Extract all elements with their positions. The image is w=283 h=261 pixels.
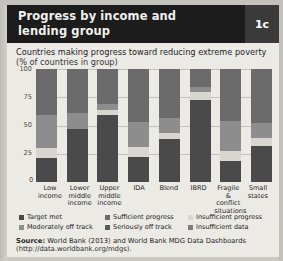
legend-item: Insufficient progress — [188, 213, 262, 222]
x-axis-label: Small states — [244, 185, 272, 215]
legend-label: Insufficient data — [196, 224, 249, 231]
legend-swatch — [188, 225, 193, 230]
bar-segment — [190, 92, 211, 100]
bar-segment — [128, 69, 149, 122]
legend-column-3: Insufficient progressInsufficient data — [188, 213, 262, 233]
source-url: (http://data.worldbank.org/mdgs). — [16, 245, 132, 253]
bar-segment — [251, 123, 272, 138]
chart-subtitle-line2: (% of countries in group) — [16, 57, 274, 67]
bar-fragile-conflict-situations[interactable] — [220, 69, 241, 182]
legend-label: Insufficient progress — [196, 214, 262, 221]
bar-blend[interactable] — [159, 69, 180, 182]
x-axis-labels: Low incomeLower middle incomeUpper middl… — [36, 185, 272, 215]
x-axis-label: IBRD — [185, 185, 213, 215]
bar-small-states[interactable] — [251, 69, 272, 182]
bar-ibrd[interactable] — [190, 69, 211, 182]
bar-segment — [220, 121, 241, 152]
page-background: Progress by income and lending group 1c … — [0, 0, 283, 261]
figure-body: Countries making progress toward reducin… — [7, 43, 279, 257]
figure-title-line1: Progress by income and — [18, 9, 228, 24]
x-axis-label: Low income — [36, 185, 64, 215]
figure-header: Progress by income and lending group 1c — [7, 5, 279, 43]
bar-segment — [67, 113, 88, 129]
legend-item: Seriously off track — [105, 223, 174, 232]
bar-segment — [36, 115, 57, 148]
legend-swatch — [19, 215, 24, 220]
y-axis-tick-label: 25 — [15, 150, 32, 157]
y-axis-tick-label: 100 — [15, 66, 32, 73]
chart-subtitle-line1: Countries making progress toward reducin… — [16, 47, 274, 57]
legend-swatch — [19, 225, 24, 230]
bar-segment — [159, 139, 180, 182]
legend-item: Target met — [19, 213, 93, 222]
bar-segment — [36, 69, 57, 115]
bar-segment — [97, 69, 118, 104]
x-axis-label: Lower middle income — [66, 185, 94, 215]
legend-label: Seriously off track — [113, 224, 172, 231]
x-axis-label: IDA — [125, 185, 153, 215]
x-axis-label: Blend — [155, 185, 183, 215]
legend-item: Sufficient progress — [105, 213, 174, 222]
legend-column-2: Sufficient progressSeriously off track — [105, 213, 174, 233]
legend-item: Insufficient data — [188, 223, 262, 232]
bar-segment — [159, 118, 180, 134]
chart-subtitle: Countries making progress toward reducin… — [16, 47, 274, 67]
chart-bars — [36, 69, 272, 182]
bar-upper-middle-income[interactable] — [97, 69, 118, 182]
bar-lower-middle-income[interactable] — [67, 69, 88, 182]
figure-card: Progress by income and lending group 1c … — [7, 5, 279, 257]
y-axis-zero-label: 0 — [29, 177, 33, 184]
bar-segment — [251, 138, 272, 146]
legend-swatch — [105, 215, 110, 220]
page-edge-left — [0, 0, 7, 261]
source-note: Source: World Bank (2013) and World Bank… — [16, 237, 274, 254]
bar-segment — [36, 148, 57, 158]
bar-segment — [190, 100, 211, 182]
figure-title: Progress by income and lending group — [18, 9, 228, 39]
x-axis-label: Upper middle income — [95, 185, 123, 215]
source-label: Source: — [16, 237, 45, 245]
bar-segment — [159, 69, 180, 118]
bar-segment — [220, 151, 241, 160]
bar-ida[interactable] — [128, 69, 149, 182]
y-axis-tick-label: 75 — [15, 94, 32, 101]
legend-item: Moderately off track — [19, 223, 93, 232]
bar-segment — [128, 147, 149, 157]
legend-label: Moderately off track — [27, 224, 93, 231]
bar-segment — [251, 146, 272, 182]
y-axis-tick-label: 50 — [15, 122, 32, 129]
bar-segment — [36, 158, 57, 182]
x-axis-label: Fragile & conflict situations — [214, 185, 242, 215]
figure-number-label: 1c — [245, 18, 279, 31]
bar-segment — [97, 115, 118, 182]
bar-segment — [220, 161, 241, 182]
bar-segment — [251, 69, 272, 123]
bar-low-income[interactable] — [36, 69, 57, 182]
bar-segment — [67, 129, 88, 182]
bar-segment — [128, 157, 149, 182]
figure-number-badge: 1c — [245, 5, 279, 43]
bar-segment — [220, 69, 241, 121]
bar-segment — [67, 69, 88, 113]
legend-swatch — [188, 215, 193, 220]
bar-segment — [190, 69, 211, 87]
stacked-bar-chart: 255075100 0 Low incomeLower middle incom… — [16, 69, 272, 193]
legend-swatch — [105, 225, 110, 230]
legend-label: Target met — [27, 214, 62, 221]
figure-title-line2: lending group — [18, 24, 228, 39]
legend-label: Sufficient progress — [113, 214, 174, 221]
bar-segment — [128, 122, 149, 147]
legend-column-1: Target metModerately off track — [19, 213, 93, 233]
source-text: World Bank (2013) and World Bank MDG Dat… — [45, 237, 246, 245]
